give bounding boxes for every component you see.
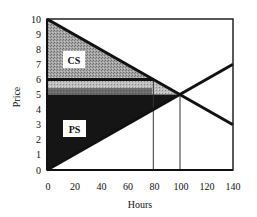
x-tick: 100 — [174, 181, 189, 192]
y-tick: 5 — [36, 89, 41, 100]
y-tick: 2 — [36, 134, 41, 145]
y-tick: 0 — [36, 165, 41, 176]
band-dark-strip — [47, 88, 152, 95]
x-tick: 20 — [70, 181, 80, 192]
chart: CS PS 10 9 8 7 6 5 4 3 2 1 0 0 20 40 60 … — [0, 0, 257, 217]
x-axis-title: Hours — [128, 199, 153, 210]
y-tick: 3 — [36, 119, 41, 130]
x-tick: 140 — [226, 181, 241, 192]
y-tick: 7 — [36, 59, 41, 70]
y-axis-title: Price — [11, 86, 22, 107]
x-tick: 80 — [150, 181, 160, 192]
x-tick: 120 — [200, 181, 215, 192]
x-tick: 40 — [97, 181, 107, 192]
y-tick: 4 — [36, 104, 41, 115]
y-tick: 1 — [36, 149, 41, 160]
y-tick: 8 — [36, 44, 41, 55]
ps-label: PS — [69, 124, 81, 135]
x-tick-labels: 0 20 40 60 80 100 120 140 — [46, 181, 241, 192]
cs-label: CS — [68, 55, 81, 66]
x-tick: 0 — [46, 181, 51, 192]
y-tick: 6 — [36, 74, 41, 85]
y-tick: 9 — [36, 29, 41, 40]
y-tick-labels: 10 9 8 7 6 5 4 3 2 1 0 — [31, 14, 41, 176]
x-tick: 60 — [123, 181, 133, 192]
plot-area: CS PS — [47, 19, 233, 170]
y-tick: 10 — [31, 14, 41, 25]
